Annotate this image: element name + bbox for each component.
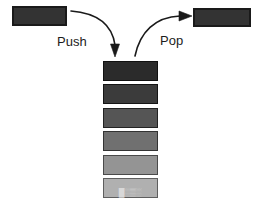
- stack-cell-4: [103, 131, 158, 151]
- stack-cell-top: [103, 61, 158, 81]
- outgoing-element-box: [193, 8, 251, 27]
- pop-label: Pop: [160, 34, 183, 48]
- stack-diagram-figure: Push Pop █░▒░: [0, 0, 254, 200]
- incoming-element-box: [12, 6, 67, 26]
- caption-fragment: █░▒░: [108, 188, 152, 198]
- push-label: Push: [57, 35, 87, 49]
- stack-cell-2: [103, 84, 158, 104]
- stack-cell-3: [103, 108, 158, 128]
- stack-cell-5: [103, 155, 158, 175]
- stack-container: [103, 61, 158, 198]
